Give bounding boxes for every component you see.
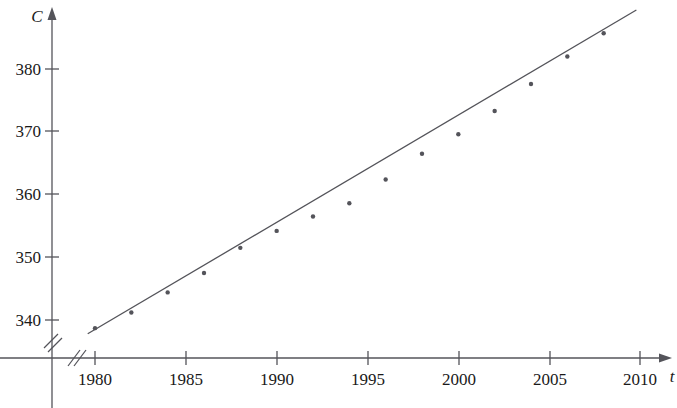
data-point: [274, 229, 278, 233]
data-point: [383, 177, 387, 181]
y-axis-arrowhead: [48, 7, 57, 20]
data-point: [165, 290, 169, 294]
data-point: [93, 326, 97, 330]
y-tick-label: 340: [16, 311, 42, 330]
x-tick-label: 1980: [78, 370, 112, 389]
x-tick-label: 2010: [623, 370, 657, 389]
data-point: [456, 132, 460, 136]
regression-line: [88, 10, 637, 334]
x-tick-label: 2000: [442, 370, 476, 389]
data-point: [238, 246, 242, 250]
data-point: [492, 109, 496, 113]
y-axis: [44, 7, 62, 408]
x-axis-arrowhead: [659, 354, 672, 363]
data-point: [311, 214, 315, 218]
y-tick-label: 370: [16, 122, 42, 141]
x-axis: [0, 350, 672, 366]
x-axis-label: t: [670, 367, 676, 386]
y-axis-break-mark: [48, 338, 62, 352]
x-tick-label: 1990: [260, 370, 294, 389]
data-point: [347, 201, 351, 205]
y-tick-label: 360: [16, 185, 42, 204]
data-point: [529, 82, 533, 86]
data-point: [129, 310, 133, 314]
y-axis-label: C: [31, 7, 43, 26]
x-tick-label: 2005: [533, 370, 567, 389]
y-tick-label: 380: [16, 60, 42, 79]
data-point: [202, 271, 206, 275]
regression-line-segment: [88, 10, 637, 334]
x-tick-labels: 1980 1985 1990 1995 2000 2005 2010: [78, 370, 657, 389]
x-tick-label: 1985: [169, 370, 203, 389]
y-tick-labels: 380 370 360 350 340: [16, 60, 42, 330]
x-tick-label: 1995: [351, 370, 385, 389]
data-point: [601, 31, 605, 35]
co2-scatter-plot: 380 370 360 350 340 1980 1985 1990 1995 …: [0, 0, 677, 408]
data-point: [565, 54, 569, 58]
y-tick-label: 350: [16, 248, 42, 267]
chart-container: 380 370 360 350 340 1980 1985 1990 1995 …: [0, 0, 677, 408]
y-axis-break-mark: [44, 334, 58, 348]
data-point: [420, 152, 424, 156]
